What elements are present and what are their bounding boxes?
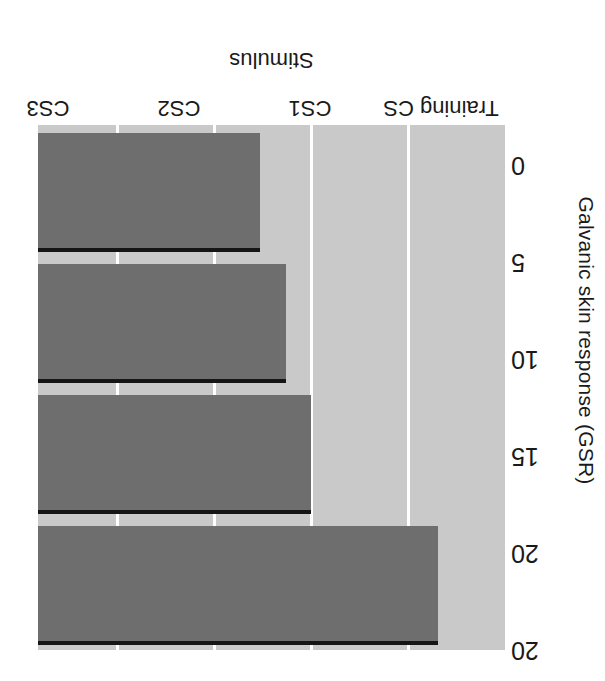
y-tick-label: 5: [511, 248, 525, 277]
bar-row: [38, 526, 505, 645]
x-axis-tick-labels: Training CS CS1 CS2 CS3: [38, 73, 505, 125]
x-tick-label-training-cs: Training CS: [383, 95, 498, 121]
bar-row: [38, 395, 505, 514]
y-tick-label: 15: [511, 442, 539, 471]
y-tick-label: 20: [511, 636, 539, 665]
y-tick-label: 0: [511, 151, 525, 180]
bar-training-cs: [38, 526, 438, 645]
bar-cs1: [38, 395, 311, 514]
bar-row: [38, 133, 505, 252]
y-tick-label: 20: [511, 539, 539, 568]
bar-chart-figure: Galvanic skin response (GSR) 20 20 15 10…: [0, 0, 605, 681]
bar-cs3: [38, 133, 260, 252]
y-axis-title: Galvanic skin response (GSR): [569, 0, 603, 681]
y-axis-tick-labels: 20 20 15 10 5 0: [507, 0, 569, 681]
y-tick-label: 10: [511, 345, 539, 374]
x-tick-label-cs2: CS2: [158, 95, 201, 121]
bar-row: [38, 264, 505, 383]
figure-rotation-wrapper: Galvanic skin response (GSR) 20 20 15 10…: [0, 0, 605, 681]
x-axis-title: Stimulus: [38, 47, 505, 73]
x-tick-label-cs1: CS1: [289, 95, 332, 121]
x-tick-label-cs3: CS3: [27, 95, 70, 121]
plot-area: [38, 125, 505, 650]
bar-cs2: [38, 264, 286, 383]
